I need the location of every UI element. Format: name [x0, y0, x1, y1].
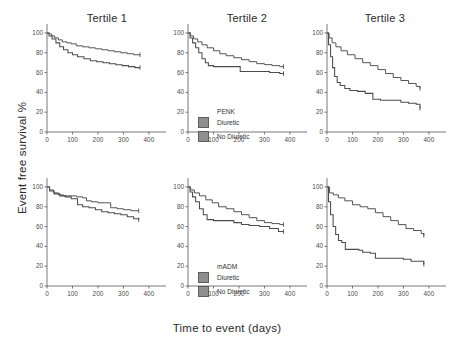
- ytick-0-2-100: 100: [301, 29, 323, 36]
- xtick-0-2-100: 100: [341, 136, 363, 143]
- xtick-0-0-200: 200: [87, 136, 109, 143]
- ytick-0-0-60: 60: [21, 69, 43, 76]
- ytick-1-1-20: 20: [162, 262, 184, 269]
- panel-madm-tertile-1: [45, 178, 167, 289]
- ytick-0-1-20: 20: [162, 108, 184, 115]
- ytick-1-1-60: 60: [162, 223, 184, 230]
- xtick-1-2-100: 100: [341, 290, 363, 297]
- ytick-0-2-80: 80: [301, 49, 323, 56]
- xtick-0-2-200: 200: [367, 136, 389, 143]
- ytick-1-0-100: 100: [21, 183, 43, 190]
- xtick-0-0-300: 300: [112, 136, 134, 143]
- curve-diuretic: [188, 33, 284, 74]
- ytick-1-0-20: 20: [21, 262, 43, 269]
- xtick-1-0-200: 200: [87, 290, 109, 297]
- panel-madm-tertile-3: [325, 178, 447, 289]
- ytick-0-2-0: 0: [301, 128, 323, 135]
- ytick-1-1-40: 40: [162, 242, 184, 249]
- panel-penk-tertile-1: [45, 24, 167, 135]
- xtick-1-1-200: 200: [228, 290, 250, 297]
- curve-no-diuretic: [327, 33, 420, 88]
- ytick-0-1-60: 60: [162, 69, 184, 76]
- ytick-0-2-20: 20: [301, 108, 323, 115]
- ytick-0-0-20: 20: [21, 108, 43, 115]
- xtick-0-1-300: 300: [253, 136, 275, 143]
- curve-no-diuretic: [47, 33, 140, 55]
- ytick-1-2-20: 20: [301, 262, 323, 269]
- curve-diuretic: [47, 187, 139, 220]
- ytick-1-0-80: 80: [21, 203, 43, 210]
- xtick-1-0-300: 300: [112, 290, 134, 297]
- xtick-1-2-400: 400: [418, 290, 440, 297]
- xtick-0-2-300: 300: [392, 136, 414, 143]
- ytick-1-0-40: 40: [21, 242, 43, 249]
- ytick-0-0-40: 40: [21, 88, 43, 95]
- xtick-1-2-200: 200: [367, 290, 389, 297]
- ytick-1-0-0: 0: [21, 282, 43, 289]
- legend-penk-label-diuretic: Diuretic: [217, 119, 239, 126]
- ytick-1-2-40: 40: [301, 242, 323, 249]
- ytick-0-1-0: 0: [162, 128, 184, 135]
- survival-figure: Event free survival % Time to event (day…: [0, 0, 454, 347]
- ytick-1-2-0: 0: [301, 282, 323, 289]
- xtick-0-2-400: 400: [418, 136, 440, 143]
- curve-diuretic: [327, 187, 424, 264]
- curve-no-diuretic: [327, 187, 424, 236]
- xtick-1-1-0: 0: [177, 290, 199, 297]
- xtick-1-2-0: 0: [316, 290, 338, 297]
- xtick-1-1-100: 100: [202, 290, 224, 297]
- legend-madm-title: mADM: [217, 263, 237, 270]
- ytick-1-2-100: 100: [301, 183, 323, 190]
- xtick-1-1-300: 300: [253, 290, 275, 297]
- xtick-0-1-400: 400: [279, 136, 301, 143]
- xtick-1-0-100: 100: [61, 290, 83, 297]
- ytick-0-0-0: 0: [21, 128, 43, 135]
- xtick-0-0-100: 100: [61, 136, 83, 143]
- ytick-1-0-60: 60: [21, 223, 43, 230]
- legend-madm-swatch-diuretic: [198, 272, 209, 283]
- xtick-1-0-0: 0: [36, 290, 58, 297]
- ytick-0-1-80: 80: [162, 49, 184, 56]
- panel-penk-tertile-3: [325, 24, 447, 135]
- ytick-0-2-40: 40: [301, 88, 323, 95]
- curve-no-diuretic: [188, 187, 284, 225]
- ytick-0-1-100: 100: [162, 29, 184, 36]
- ytick-1-1-80: 80: [162, 203, 184, 210]
- xtick-0-1-0: 0: [177, 136, 199, 143]
- legend-penk-swatch-diuretic: [198, 117, 209, 128]
- legend-penk-title: PENK: [217, 108, 235, 115]
- xtick-1-1-400: 400: [279, 290, 301, 297]
- curve-diuretic: [327, 33, 420, 108]
- curve-no-diuretic: [188, 33, 284, 67]
- xtick-0-2-0: 0: [316, 136, 338, 143]
- ytick-0-0-100: 100: [21, 29, 43, 36]
- xtick-0-0-400: 400: [138, 136, 160, 143]
- legend-madm-label-diuretic: Diuretic: [217, 274, 239, 281]
- ytick-1-1-0: 0: [162, 282, 184, 289]
- xtick-1-2-300: 300: [392, 290, 414, 297]
- curve-diuretic: [47, 33, 140, 68]
- curve-no-diuretic: [47, 187, 139, 211]
- xtick-0-0-0: 0: [36, 136, 58, 143]
- xtick-1-0-400: 400: [138, 290, 160, 297]
- ytick-0-2-60: 60: [301, 69, 323, 76]
- xtick-0-1-100: 100: [202, 136, 224, 143]
- ytick-1-1-100: 100: [162, 183, 184, 190]
- ytick-1-2-60: 60: [301, 223, 323, 230]
- ytick-0-0-80: 80: [21, 49, 43, 56]
- xtick-0-1-200: 200: [228, 136, 250, 143]
- ytick-0-1-40: 40: [162, 88, 184, 95]
- curve-diuretic: [188, 187, 284, 232]
- ytick-1-2-80: 80: [301, 203, 323, 210]
